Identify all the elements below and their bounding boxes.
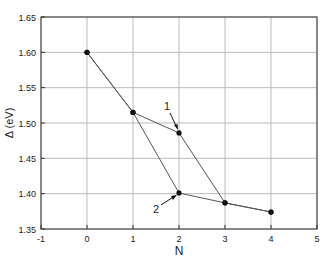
- data-point: [176, 190, 181, 195]
- arrowhead-icon: [174, 124, 178, 130]
- arrowhead-icon: [171, 195, 177, 200]
- annotation-label-1: 1: [164, 100, 170, 112]
- annotations: 12: [153, 100, 178, 215]
- x-tick-label: 1: [130, 234, 135, 244]
- y-tick-label: 1.50: [18, 119, 36, 129]
- data-point: [268, 209, 273, 214]
- y-axis-label: Δ (eV): [3, 108, 15, 139]
- y-tick-label: 1.35: [18, 225, 36, 235]
- y-tick-label: 1.55: [18, 83, 36, 93]
- x-tick-label: 0: [84, 234, 89, 244]
- data-point: [84, 50, 89, 55]
- x-tick-label: 5: [314, 234, 319, 244]
- x-axis-label: N: [175, 244, 184, 258]
- x-tick-label: -1: [37, 234, 45, 244]
- x-tick-label: 2: [176, 234, 181, 244]
- y-tick-label: 1.40: [18, 189, 36, 199]
- x-tick-label: 3: [222, 234, 227, 244]
- annotation-label-2: 2: [153, 203, 159, 215]
- data-point: [222, 200, 227, 205]
- y-tick-label: 1.65: [18, 13, 36, 23]
- x-axis-ticks: -1012345: [37, 225, 320, 244]
- data-point: [176, 130, 181, 135]
- y-tick-label: 1.60: [18, 48, 36, 58]
- line-chart: 1.351.401.451.501.551.601.65 -1012345 12…: [0, 0, 331, 270]
- x-tick-label: 4: [268, 234, 273, 244]
- data-point: [130, 110, 135, 115]
- grid-lines: [41, 17, 317, 229]
- y-tick-label: 1.45: [18, 154, 36, 164]
